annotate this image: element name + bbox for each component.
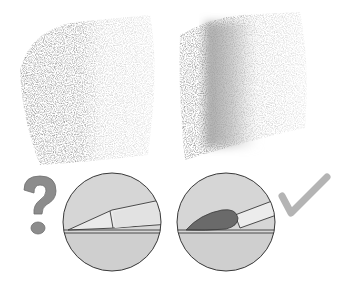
question-mark-icon <box>24 176 56 234</box>
blended-texture-swatch <box>180 12 307 160</box>
brush-tip-detail <box>175 173 285 273</box>
illustration-canvas <box>0 0 347 282</box>
pencil-tip-detail <box>60 173 170 273</box>
pencil-texture-swatch <box>20 15 155 165</box>
checkmark-icon <box>282 177 327 213</box>
